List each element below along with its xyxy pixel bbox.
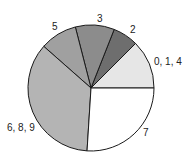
- pie-chart: 0, 1, 42356, 8, 97: [0, 0, 188, 161]
- pie-slices: [28, 25, 154, 151]
- slice-label: 7: [143, 127, 149, 138]
- slice-label: 0, 1, 4: [154, 56, 182, 67]
- slice-label: 6, 8, 9: [7, 122, 35, 133]
- slice-label: 5: [52, 21, 58, 32]
- slice-label: 2: [130, 24, 136, 35]
- pie-slice-7: [87, 88, 154, 151]
- slice-label: 3: [97, 13, 103, 24]
